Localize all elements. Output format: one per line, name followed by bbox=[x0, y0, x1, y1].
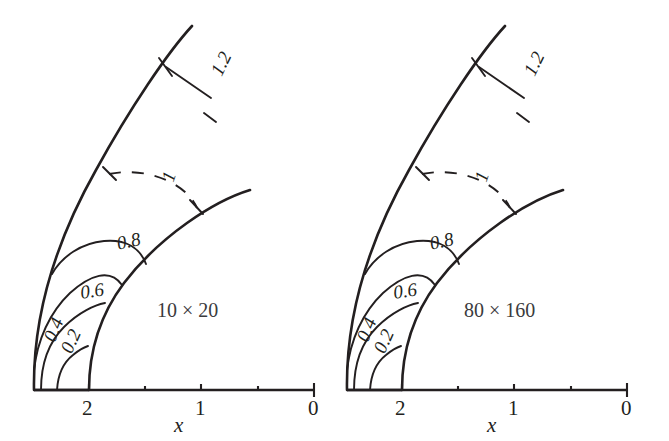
panel-right-graphics bbox=[334, 0, 669, 441]
inner-boundary-curve bbox=[402, 190, 563, 390]
contour-label-0.8: 0.8 bbox=[115, 229, 142, 253]
x-axis-label-1: 1 bbox=[195, 398, 206, 419]
contour-1.2-tick-inner bbox=[204, 113, 216, 122]
panel-right: 0.4 0.2 0.6 0.8 1 1.2 80 × 160 2 1 0 x bbox=[334, 0, 669, 441]
contour-label-0.6: 0.6 bbox=[392, 280, 418, 302]
inner-boundary-curve bbox=[89, 190, 250, 390]
contour-1.0 bbox=[109, 172, 197, 208]
contour-1.0-tick-inner bbox=[190, 200, 203, 214]
contour-1.2 bbox=[479, 67, 524, 98]
panel-left: 0.4 0.2 0.6 0.8 1 1.2 10 × 20 2 1 0 x bbox=[0, 0, 335, 441]
x-axis-label-1: 1 bbox=[508, 398, 519, 419]
contour-label-0.8: 0.8 bbox=[428, 229, 455, 253]
mesh-size-label: 10 × 20 bbox=[157, 300, 218, 320]
x-axis-label-2: 2 bbox=[82, 398, 93, 419]
contour-figure: 0.4 0.2 0.6 0.8 1 1.2 10 × 20 2 1 0 x bbox=[0, 0, 669, 441]
contour-1.0-tick-inner bbox=[503, 200, 516, 214]
contour-1.2 bbox=[166, 67, 211, 98]
panel-left-graphics bbox=[0, 0, 335, 441]
x-axis-label-0: 0 bbox=[308, 398, 319, 419]
x-axis-title: x bbox=[487, 415, 496, 436]
x-axis-title: x bbox=[174, 415, 183, 436]
contour-label-0.6: 0.6 bbox=[79, 280, 105, 302]
x-axis-label-0: 0 bbox=[621, 398, 632, 419]
mesh-size-label: 80 × 160 bbox=[464, 300, 535, 320]
x-axis-label-2: 2 bbox=[395, 398, 406, 419]
contour-1.0 bbox=[422, 172, 510, 208]
contour-1.2-tick-inner bbox=[517, 113, 529, 122]
